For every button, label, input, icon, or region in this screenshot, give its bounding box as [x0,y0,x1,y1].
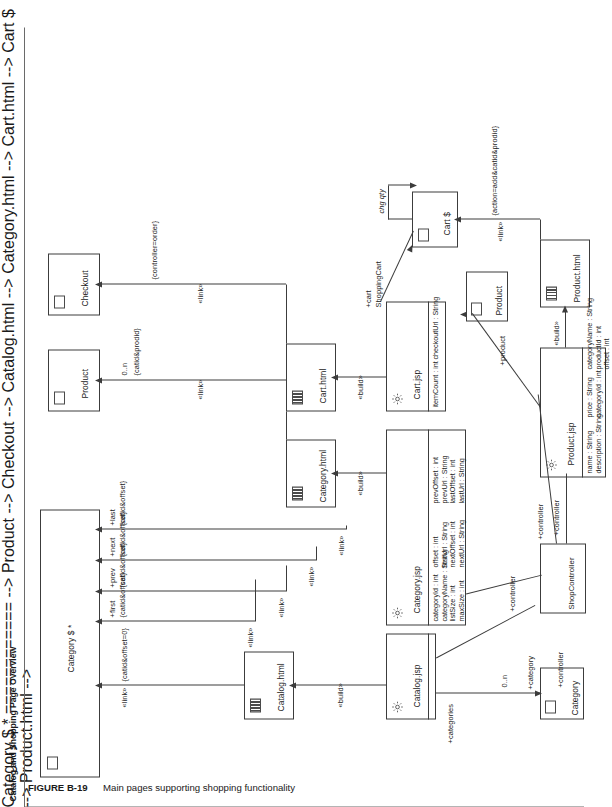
edge-product-build-line [565,307,566,347]
page-icon [54,295,65,308]
edge-ctrl4-role: +controller [536,503,545,539]
edge-first-horz [255,579,256,621]
edge-catalog-categories-arrow [535,691,542,697]
page-icon [545,700,556,713]
gear-icon [391,700,404,713]
node-product-label: Product [80,368,90,398]
edge-categoryhtml-product-stereotype: «link» [196,379,205,399]
edge-product-build-arrow [562,305,568,312]
edge-chgqty-v1 [388,218,412,219]
node-category-jsp-attributes-2: offset : int firstUrl : String nextOffse… [432,519,466,567]
frames-icon [292,390,303,404]
edge-carthtml-checkout-stereotype: «link» [196,283,205,303]
edge-next-stereotype: «link» [307,566,316,586]
attribute: itemCount : int [432,361,441,407]
edge-prev-horz [286,565,287,591]
attribute: offset : int [603,297,612,369]
edge-carthtml-checkout-horz [286,284,287,343]
edge-first-role: +first [108,600,117,617]
edge-next-horz [316,546,317,560]
edge-producthtml-link-line [458,218,540,219]
edge-next-role: +next [108,537,117,556]
node-product-jsp-attributes-2: price : String categoryId : int [586,370,603,417]
frames-icon [250,698,261,712]
node-checkout-label: Checkout [80,270,90,306]
compartment-separator [428,301,429,411]
edge-catalog-link-stereotype: «link» [120,687,129,707]
compartment-separator [428,429,429,625]
page-icon [47,756,58,769]
edge-last-params: {catid&offset} [118,480,127,525]
edge-producthtml-link-stereotype: «link» [496,221,505,241]
node-category-jsp-attributes-3: prevOffset : int prevUrl : String lastOf… [432,455,466,503]
frames-icon [292,486,303,500]
page-icon [418,228,429,241]
attribute: description : String [595,413,604,473]
title-rule [24,27,25,807]
node-shop-controller-label: ShopController [567,557,576,609]
edge-product-product-role: +product [498,335,507,365]
node-product-jsp-attributes-3: categoryName : String productId : int of… [586,297,612,369]
edge-first-arrow [95,619,102,625]
edge-product-build-stereotype: «build» [552,320,561,345]
edge-prev-role: +prev [108,568,117,587]
edge-prev-arrow [95,589,102,595]
node-catalog-jsp-label: Catalog.jsp [412,664,422,707]
edge-ctrl2-line [466,574,542,594]
edge-carthtml-checkout-params: {controller=order} [150,220,159,279]
diagram-title: Catalog and Shopping Page Overview [8,646,18,801]
node-product-small-label: Product [494,285,504,315]
compartment-separator [582,347,583,477]
node-catalog-html-label: Catalog.html [276,663,286,711]
edge-ctrl1-role: +controller [556,651,565,687]
compartment-separator [428,633,429,719]
page-icon [54,391,65,404]
edge-last-stereotype: «link» [337,535,346,555]
node-shop-controller[interactable] [540,543,586,613]
edge-producthtml-link-arrow [454,217,461,223]
edge-catalog-categories-line [436,692,540,693]
edge-first-vert [100,620,255,621]
edge-last-vert [100,528,346,529]
node-cart-jsp-label: Cart.jsp [412,369,422,399]
edge-shoppingcart-role: ShoppingCart [374,261,383,307]
node-cart-label: Cart $ [442,212,452,235]
edge-categoryhtml-product-line [100,379,286,380]
node-product-jsp-label: Product.jsp [566,422,576,465]
edge-categoryhtml-product-arrow [95,378,102,384]
edge-catalog-categories-role: +categories [446,703,455,743]
edge-cart-build-arrow [331,375,338,381]
edge-categoryhtml-product-params: {catid&prodid} [132,328,141,375]
edge-catalog-link-params: {catid&offset=0} [120,628,129,681]
edge-prev-stereotype: «link» [277,597,286,617]
edge-next-arrow [95,558,102,564]
edge-catalog-category-role: +category [526,655,535,689]
node-category-small-label: Category [570,680,580,715]
edge-catalog-link-line [100,684,244,685]
attribute: nextUrl : String [458,519,467,567]
gear-icon [391,606,404,619]
node-category-html-label: Category.html [318,449,328,502]
edge-last-arrow [95,527,102,533]
attribute: checkoutUrl : String [432,296,441,359]
frames-icon [546,286,557,300]
edge-category-build-stereotype: «build» [356,470,365,495]
node-cart-jsp-attributes: itemCount : int [432,361,441,407]
node-product-html-label: Product.html [572,254,582,302]
edge-catalog-build-arrow [289,683,296,689]
edge-carthtml-checkout-line [100,283,286,284]
node-category-jsp-label: Category.jsp [412,565,422,613]
attribute: categoryId : int [595,370,604,417]
gear-icon [391,392,404,405]
edge-catalog-category-multiplicity: 0..n [500,674,509,687]
edge-last-role: +last [108,509,117,525]
edge-cart-cart-role: +cart [364,290,373,307]
edge-category-build-arrow [331,471,338,477]
edge-carthtml-checkout-arrow [95,282,102,288]
node-cart-jsp-attributes-2: checkoutUrl : String [432,296,441,359]
edge-chgqty-arrow [410,183,417,189]
edge-first-stereotype: «link» [246,627,255,647]
edge-categoryhtml-product-multiplicity: 0..n [120,362,129,375]
node-cart-html-label: Cart.html [318,368,328,403]
